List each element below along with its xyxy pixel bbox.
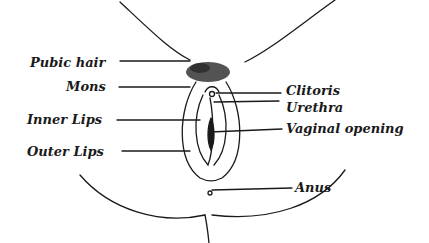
label-urethra: Urethra <box>286 101 343 114</box>
label-outer-lips: Outer Lips <box>27 145 104 158</box>
label-anus: Anus <box>295 181 331 194</box>
label-vaginal-opening: Vaginal opening <box>286 122 404 135</box>
label-pubic-hair: Pubic hair <box>30 56 105 69</box>
anatomy-diagram: Pubic hair Mons Inner Lips Outer Lips Cl… <box>0 0 429 243</box>
label-inner-lips: Inner Lips <box>27 113 102 126</box>
label-clitoris: Clitoris <box>286 84 340 97</box>
label-mons: Mons <box>66 80 106 93</box>
